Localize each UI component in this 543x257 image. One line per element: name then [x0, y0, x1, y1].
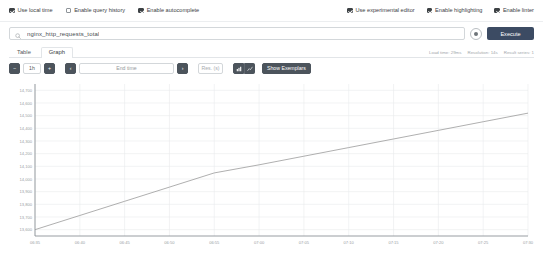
- y-axis-tick-label: 14,400: [19, 126, 32, 131]
- x-axis-tick-label: 06:40: [75, 240, 86, 245]
- step-back-button[interactable]: ‹: [65, 63, 76, 74]
- y-axis-tick-label: 13,900: [19, 189, 32, 194]
- x-axis-tick-label: 06:50: [164, 240, 175, 245]
- query-options-bar: Use local time Enable query history Enab…: [0, 0, 543, 22]
- result-series-text: Result series: 1: [504, 50, 534, 55]
- option-enable-linter[interactable]: Enable linter: [494, 8, 534, 14]
- graph-svg[interactable]: 13,60013,70013,80013,90014,00014,10014,2…: [9, 80, 534, 250]
- y-axis-tick-label: 14,000: [19, 177, 32, 182]
- stacked-chart-icon[interactable]: [233, 63, 244, 74]
- y-axis-tick-label: 13,700: [19, 215, 32, 220]
- y-axis-tick-label: 13,800: [19, 202, 32, 207]
- x-axis-tick-label: 06:55: [209, 240, 220, 245]
- enable-highlighting-label: Enable highlighting: [435, 8, 482, 14]
- use-local-time-checkbox[interactable]: [9, 8, 15, 14]
- y-axis-tick-label: 13,600: [19, 227, 32, 232]
- x-axis-tick-label: 06:35: [30, 240, 41, 245]
- x-axis-tick-label: 07:20: [433, 240, 444, 245]
- decrease-range-button[interactable]: −: [9, 63, 20, 74]
- query-input[interactable]: nginx_http_requests_total: [27, 31, 99, 37]
- load-time-text: Load time: 29ms: [429, 50, 461, 55]
- y-axis-tick-label: 14,200: [19, 151, 32, 156]
- graph-panel[interactable]: 13,60013,70013,80013,90014,00014,10014,2…: [9, 80, 534, 250]
- x-axis-tick-label: 07:10: [344, 240, 355, 245]
- increase-range-button[interactable]: +: [44, 63, 55, 74]
- tab-graph[interactable]: Graph: [41, 47, 73, 58]
- chart-type-group: [233, 63, 255, 74]
- tab-table[interactable]: Table: [9, 47, 39, 58]
- execute-button[interactable]: Execute: [487, 27, 534, 40]
- search-icon: [15, 25, 21, 43]
- option-enable-query-history[interactable]: Enable query history: [66, 8, 126, 14]
- enable-autocomplete-checkbox[interactable]: [138, 8, 144, 14]
- x-axis-tick-label: 07:25: [478, 240, 489, 245]
- y-axis-tick-label: 14,100: [19, 164, 32, 169]
- enable-query-history-checkbox[interactable]: [66, 8, 72, 14]
- query-options-icon[interactable]: [470, 28, 482, 40]
- options-left-group: Use local time Enable query history Enab…: [9, 8, 199, 14]
- option-use-experimental-editor[interactable]: Use experimental editor: [347, 8, 415, 14]
- option-use-local-time[interactable]: Use local time: [9, 8, 53, 14]
- options-right-group: Use experimental editor Enable highlight…: [347, 8, 534, 14]
- x-axis-tick-label: 07:00: [254, 240, 265, 245]
- query-row: nginx_http_requests_total Execute: [0, 22, 543, 44]
- enable-query-history-label: Enable query history: [74, 8, 125, 14]
- enable-linter-checkbox[interactable]: [494, 8, 500, 14]
- y-axis-tick-label: 14,600: [19, 101, 32, 106]
- x-axis-tick-label: 07:15: [388, 240, 399, 245]
- y-axis-tick-label: 14,700: [19, 88, 32, 93]
- enable-linter-label: Enable linter: [503, 8, 534, 14]
- x-axis-tick-label: 07:05: [299, 240, 310, 245]
- use-experimental-editor-label: Use experimental editor: [356, 8, 415, 14]
- end-time-input[interactable]: End time: [79, 63, 174, 74]
- range-input[interactable]: 1h: [23, 63, 41, 74]
- use-experimental-editor-checkbox[interactable]: [347, 8, 353, 14]
- enable-autocomplete-label: Enable autocomplete: [147, 8, 200, 14]
- line-chart-icon[interactable]: [244, 63, 255, 74]
- resolution-input[interactable]: Res. (s): [198, 63, 223, 74]
- result-tabs: Table Graph Load time: 29ms Resolution: …: [9, 44, 534, 58]
- y-axis-tick-label: 14,300: [19, 139, 32, 144]
- use-local-time-label: Use local time: [18, 8, 53, 14]
- y-axis-tick-label: 14,500: [19, 113, 32, 118]
- option-enable-autocomplete[interactable]: Enable autocomplete: [138, 8, 199, 14]
- query-input-wrapper[interactable]: nginx_http_requests_total: [9, 27, 465, 40]
- query-meta: Load time: 29ms Resolution: 14s Result s…: [429, 50, 534, 55]
- graph-controls-toolbar: − 1h + ‹ End time › Res. (s) Show Exempl…: [0, 58, 543, 78]
- resolution-text: Resolution: 14s: [467, 50, 497, 55]
- x-axis-tick-label: 07:30: [523, 240, 534, 245]
- series-line: [35, 113, 528, 230]
- show-exemplars-button[interactable]: Show Exemplars: [262, 63, 311, 74]
- query-options-dot: [474, 32, 478, 36]
- enable-highlighting-checkbox[interactable]: [427, 8, 433, 14]
- step-forward-button[interactable]: ›: [177, 63, 188, 74]
- prometheus-query-page: Use local time Enable query history Enab…: [0, 0, 543, 257]
- option-enable-highlighting[interactable]: Enable highlighting: [427, 8, 483, 14]
- x-axis-tick-label: 06:45: [120, 240, 131, 245]
